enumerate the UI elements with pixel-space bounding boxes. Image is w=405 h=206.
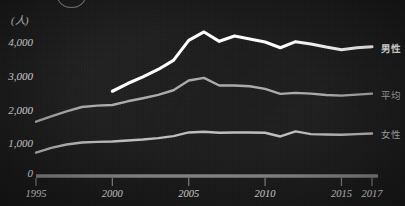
x-axis-tick-marks [36,178,372,186]
x-tick-label-2005: 2005 [178,188,199,199]
series-line-1 [36,78,372,122]
series-lines-group [36,32,372,153]
series-label-0: 男性 [381,41,402,55]
plot-area [0,0,405,206]
x-tick-label-1995: 1995 [26,188,47,199]
series-line-0 [112,32,372,91]
series-line-2 [36,131,372,152]
series-label-1: 平均 [381,88,402,102]
x-tick-label-2015: 2015 [331,188,352,199]
x-tick-label-2010: 2010 [255,188,276,199]
x-tick-label-2000: 2000 [102,188,123,199]
series-label-2: 女性 [381,127,402,141]
chart-figure: (人) 4,000 3,000 2,000 1,000 0 1995200020… [0,0,405,206]
x-tick-label-2017: 2017 [362,188,383,199]
